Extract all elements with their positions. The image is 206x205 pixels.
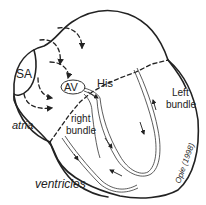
label-left-bundle-2: bundle (166, 99, 196, 110)
label-right-bundle-2: bundle (66, 125, 96, 136)
conduction-arrow-1 (88, 92, 98, 98)
impulse-arrow-3 (50, 62, 68, 78)
left-wall-line (168, 60, 186, 88)
label-av: AV (64, 81, 79, 93)
label-credit: Opie (1998) (173, 142, 196, 185)
label-atria: atria (12, 119, 33, 131)
label-ventricles: ventricles (35, 177, 86, 191)
label-right-bundle-1: right (71, 113, 91, 124)
impulse-arrow-4 (38, 78, 52, 98)
heart-conduction-diagram: SA AV His atria right bundle Left bundle… (0, 0, 206, 205)
conduction-arrow-6 (110, 170, 122, 176)
label-left-bundle-1: Left (172, 87, 189, 98)
impulse-arrow-2 (40, 40, 60, 64)
label-his: His (97, 77, 113, 89)
conduction-arrow-4 (153, 100, 156, 110)
conduction-arrow-5 (74, 154, 78, 160)
label-sa: SA (16, 67, 32, 81)
conduction-arrow-3 (140, 122, 144, 134)
